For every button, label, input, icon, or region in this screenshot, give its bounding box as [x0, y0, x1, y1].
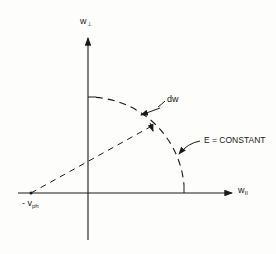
dw-text: dw: [167, 94, 179, 104]
horizontal-axis-label: wII: [238, 185, 248, 196]
dw-arrow-inner: [150, 123, 153, 131]
phase-velocity-symbol: - v: [22, 198, 32, 208]
dw-label: dw: [167, 94, 179, 104]
phase-velocity-subscript: ph: [32, 203, 39, 209]
constant-energy-label: E = CONSTANT: [204, 135, 265, 145]
diagram-graphics: [0, 0, 276, 254]
phase-velocity-point: [30, 192, 33, 195]
horizontal-axis-subscript: II: [245, 190, 248, 196]
phase-velocity-line: [31, 127, 150, 193]
constant-energy-arc: [96, 97, 184, 185]
dw-leader: [158, 101, 165, 107]
diagram-canvas: w⊥ wII - vph dw E = CONSTANT: [0, 0, 276, 254]
vertical-axis-subscript: ⊥: [87, 21, 92, 27]
constant-energy-leader: [179, 141, 200, 154]
constant-energy-text: E = CONSTANT: [204, 135, 265, 145]
dw-arrow-outer: [141, 108, 160, 115]
vertical-axis-label: w⊥: [80, 16, 92, 27]
phase-velocity-label: - vph: [22, 198, 39, 209]
